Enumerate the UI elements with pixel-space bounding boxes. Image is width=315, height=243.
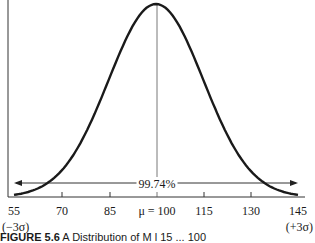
tick-label-55: 55 (8, 204, 20, 219)
arrow-left-icon (14, 180, 22, 186)
caption-text: A Distribution of M l 15 ... 100 (62, 231, 206, 243)
percent-label: 99.74% (137, 177, 178, 192)
x-ticks (62, 192, 251, 197)
tick-label-115: 115 (195, 204, 213, 219)
distribution-curve (14, 4, 298, 195)
tick-label-145: 145 (289, 204, 307, 219)
tick-label-85: 85 (104, 204, 116, 219)
figure-number: FIGURE 5.6 (0, 231, 60, 243)
right-sigma-label: (+3σ) (286, 220, 313, 235)
tick-label-70: 70 (56, 204, 68, 219)
figure-caption: FIGURE 5.6 A Distribution of M l 15 ... … (0, 231, 206, 243)
tick-label-mean: μ = 100 (138, 204, 175, 219)
arrow-right-icon (290, 180, 298, 186)
tick-label-130: 130 (242, 204, 260, 219)
